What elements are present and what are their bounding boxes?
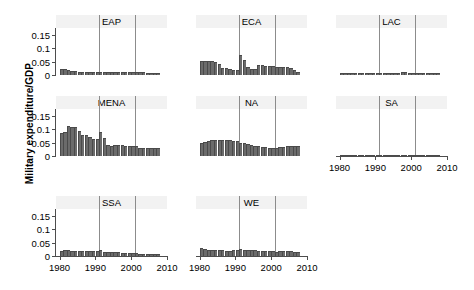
bar-series-we [196, 209, 307, 256]
x-axis-spine [336, 156, 447, 157]
facet-panel-ssa: SSA [56, 196, 167, 256]
plot-area-ssa [56, 209, 167, 256]
plot-area-mena [56, 109, 167, 156]
bar-series-mena [56, 109, 167, 156]
panel-strip-ssa: SSA [56, 196, 167, 209]
panel-title-lac: LAC [382, 17, 400, 27]
facet-panel-sa: SA [336, 96, 447, 156]
x-axis-tick-label: 1990 [365, 162, 386, 173]
panel-strip-na: NA [196, 96, 307, 109]
panel-strip-lac: LAC [336, 15, 447, 28]
x-axis-spine [196, 256, 307, 257]
y-axis-tick-label: 0.1 [37, 124, 50, 135]
bar [296, 146, 299, 156]
x-axis-tick-label: 2000 [261, 262, 282, 273]
x-axis-tick [131, 256, 132, 260]
y-axis-tick-label: 0.05 [32, 56, 51, 67]
bar-series-ssa [56, 209, 167, 256]
plot-area-na [196, 109, 307, 156]
y-axis-tick [52, 75, 56, 76]
y-axis-row-3: 00.050.10.15 [50, 209, 56, 256]
x-axis-tick-label: 1980 [189, 262, 210, 273]
panel-title-sa: SA [385, 98, 398, 108]
facet-panel-mena: MENA [56, 96, 167, 156]
x-axis-tick [340, 156, 341, 160]
panel-title-mena: MENA [98, 98, 125, 108]
x-axis-we: 1980199020002010 [196, 256, 307, 274]
x-axis-sa: 1980199020002010 [336, 156, 447, 174]
bar [436, 73, 439, 75]
bar [156, 73, 159, 75]
y-axis-tick-label: 0.15 [32, 110, 51, 121]
x-axis-tick [60, 256, 61, 260]
y-axis-row-2: 00.050.10.15 [50, 109, 56, 156]
bar [296, 72, 299, 75]
panel-title-ssa: SSA [102, 198, 121, 208]
x-axis-tick [95, 256, 96, 260]
plot-area-eap [56, 28, 167, 75]
x-axis-tick [447, 156, 448, 160]
y-axis-tick-label: 0.1 [37, 43, 50, 54]
y-axis-tick [52, 216, 56, 217]
y-axis-tick-label: 0.05 [32, 137, 51, 148]
y-axis-tick-label: 0 [45, 151, 50, 162]
bar-series-eca [196, 28, 307, 75]
x-axis-spine [56, 256, 167, 257]
plot-area-lac [336, 28, 447, 75]
panel-strip-eca: ECA [196, 15, 307, 28]
x-axis-tick [235, 256, 236, 260]
y-axis-tick [52, 62, 56, 63]
x-axis-tick-label: 2000 [121, 262, 142, 273]
x-axis-tick-label: 2000 [401, 162, 422, 173]
x-axis-tick-label: 2010 [436, 162, 457, 173]
panel-strip-mena: MENA [56, 96, 167, 109]
panel-strip-eap: EAP [56, 15, 167, 28]
x-axis-tick-label: 1980 [329, 162, 350, 173]
x-axis-tick [200, 256, 201, 260]
y-axis-tick [52, 143, 56, 144]
panel-strip-we: WE [196, 196, 307, 209]
y-axis-tick-label: 0.15 [32, 210, 51, 221]
facet-panel-eap: EAP [56, 15, 167, 75]
y-axis-row-1: 00.050.10.15 [50, 28, 56, 75]
y-axis-tick [52, 243, 56, 244]
y-axis-tick-label: 0.15 [32, 29, 51, 40]
x-axis-tick [307, 256, 308, 260]
x-axis-tick [411, 156, 412, 160]
panel-title-na: NA [245, 98, 258, 108]
y-axis-tick-label: 0 [45, 251, 50, 262]
y-axis-tick-label: 0 [45, 70, 50, 81]
facet-panel-na: NA [196, 96, 307, 156]
x-axis-tick-label: 1990 [85, 262, 106, 273]
y-axis-tick [52, 116, 56, 117]
x-axis-ssa: 1980199020002010 [56, 256, 167, 274]
plot-area-eca [196, 28, 307, 75]
panel-title-eca: ECA [242, 17, 262, 27]
x-axis-tick [271, 256, 272, 260]
x-axis-tick [375, 156, 376, 160]
y-axis-tick [52, 129, 56, 130]
panel-strip-sa: SA [336, 96, 447, 109]
bar-series-sa [336, 109, 447, 156]
x-axis-tick-label: 2010 [296, 262, 317, 273]
facet-panel-we: WE [196, 196, 307, 256]
y-axis-tick [52, 156, 56, 157]
facet-panel-eca: ECA [196, 15, 307, 75]
plot-area-sa [336, 109, 447, 156]
x-axis-tick [167, 256, 168, 260]
y-axis-tick [52, 48, 56, 49]
bar-series-na [196, 109, 307, 156]
bar-series-lac [336, 28, 447, 75]
y-axis-tick [52, 35, 56, 36]
bar [156, 148, 159, 156]
y-axis-tick-label: 0.1 [37, 224, 50, 235]
y-axis-tick-label: 0.05 [32, 237, 51, 248]
panel-title-we: WE [244, 198, 259, 208]
bar-series-eap [56, 28, 167, 75]
x-axis-tick-label: 1980 [49, 262, 70, 273]
chart-root: Military expenditure/GDP EAPECALACMENANA… [0, 0, 474, 290]
panel-title-eap: EAP [102, 17, 121, 27]
y-axis-tick [52, 229, 56, 230]
plot-area-we [196, 209, 307, 256]
x-axis-tick-label: 2010 [156, 262, 177, 273]
